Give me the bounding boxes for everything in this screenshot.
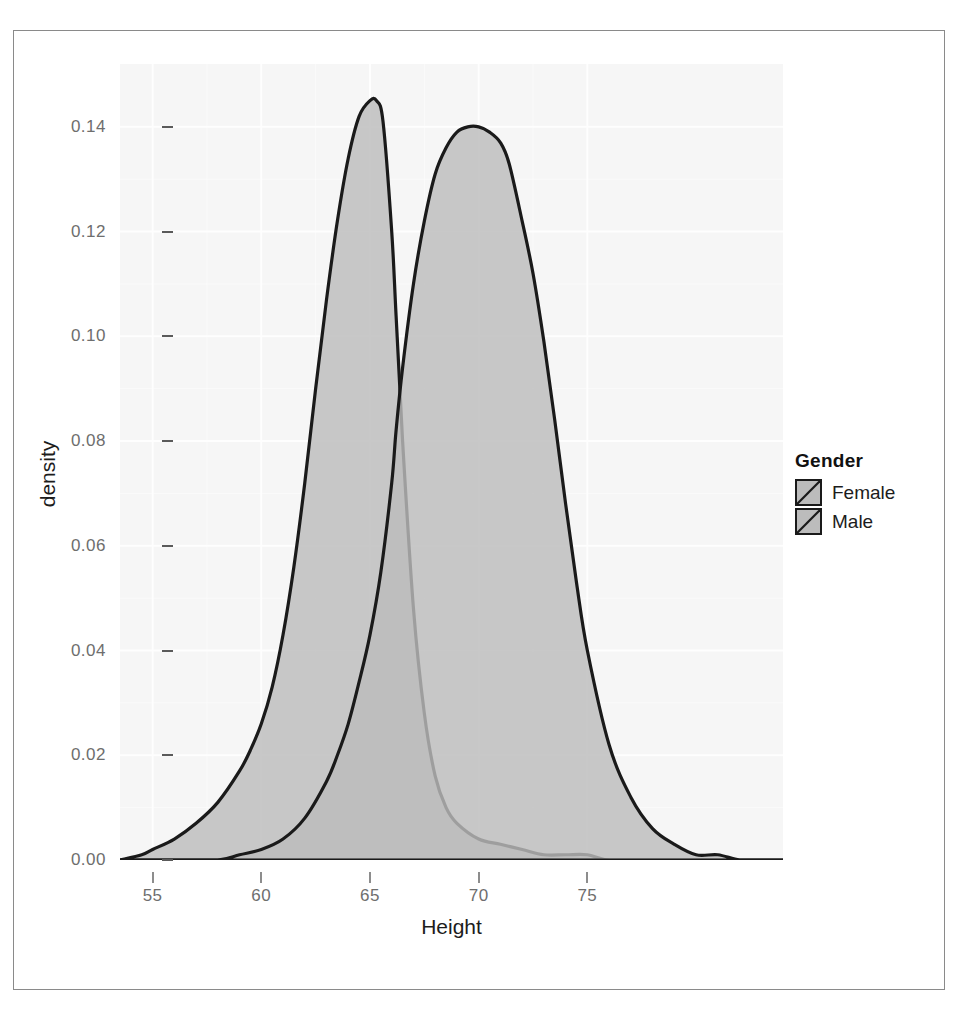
y-tick-mark <box>162 545 173 547</box>
y-tick-label: 0.14 <box>71 117 106 137</box>
x-tick-label: 65 <box>360 886 380 906</box>
x-tick-mark <box>478 872 480 883</box>
y-tick-label: 0.06 <box>71 536 106 556</box>
x-tick-mark <box>369 872 371 883</box>
x-axis: 5560657075 <box>120 860 783 908</box>
legend-item[interactable]: Female <box>795 478 935 507</box>
y-tick-mark <box>162 231 173 233</box>
legend-key-male <box>795 508 822 535</box>
y-tick-mark <box>162 335 173 337</box>
legend: Gender FemaleMale <box>795 450 935 536</box>
x-tick-mark <box>152 872 154 883</box>
x-tick-mark <box>260 872 262 883</box>
x-tick-label: 70 <box>469 886 489 906</box>
y-tick-label: 0.04 <box>71 641 106 661</box>
y-tick-label: 0.10 <box>71 326 106 346</box>
legend-label: Male <box>832 511 873 533</box>
plot-panel <box>120 64 783 860</box>
x-tick-label: 55 <box>143 886 163 906</box>
y-tick-label: 0.02 <box>71 745 106 765</box>
y-tick-mark <box>162 126 173 128</box>
x-tick-mark <box>586 872 588 883</box>
legend-item[interactable]: Male <box>795 507 935 536</box>
legend-label: Female <box>832 482 895 504</box>
y-axis-title: density <box>36 424 60 524</box>
y-tick-label: 0.00 <box>71 850 106 870</box>
y-tick-label: 0.12 <box>71 222 106 242</box>
y-tick-label: 0.08 <box>71 431 106 451</box>
plot-area-svg <box>120 64 783 860</box>
x-tick-label: 75 <box>577 886 597 906</box>
legend-items: FemaleMale <box>795 478 935 536</box>
y-tick-mark <box>162 440 173 442</box>
y-tick-mark <box>162 754 173 756</box>
legend-title: Gender <box>795 450 935 472</box>
y-tick-mark <box>162 650 173 652</box>
density-plot-figure: 0.000.020.040.060.080.100.120.14 5560657… <box>0 0 959 1010</box>
legend-key-female <box>795 479 822 506</box>
density-areas <box>120 98 783 860</box>
x-tick-label: 60 <box>251 886 271 906</box>
x-axis-title: Height <box>120 915 783 939</box>
